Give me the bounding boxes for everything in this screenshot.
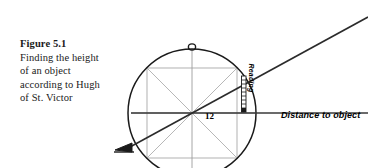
figure-page: Figure 5.1 Finding the height of an obje… (0, 0, 368, 168)
reading-label: Reading (247, 58, 255, 98)
scale-value-label: 12 (205, 111, 214, 121)
surveying-instrument-diagram (0, 0, 368, 168)
distance-to-object-label: Distance to object (281, 110, 360, 120)
triangle-sight-icon (114, 143, 134, 152)
reading-scale-bar (242, 76, 247, 112)
